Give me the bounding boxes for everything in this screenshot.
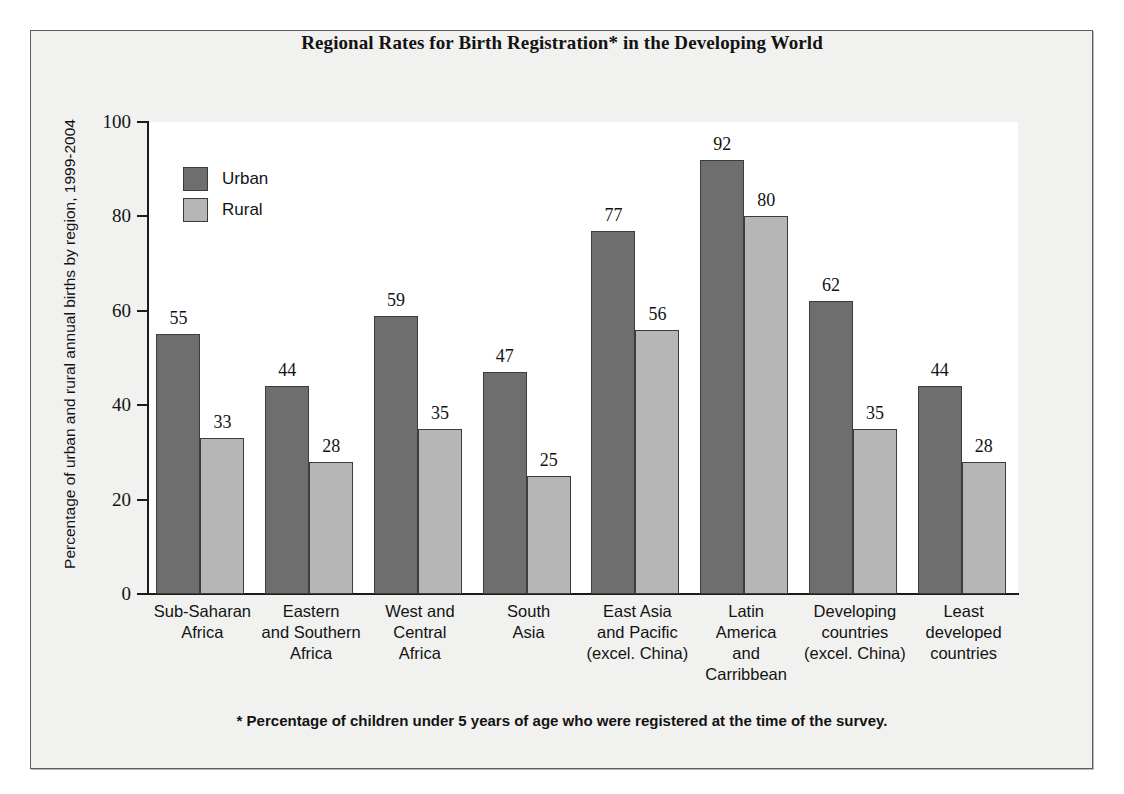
legend-item-rural: Rural — [183, 194, 268, 225]
bar-value-label: 44 — [255, 360, 319, 381]
bar-rural-7 — [962, 462, 1006, 594]
bar-value-label: 92 — [690, 134, 754, 155]
chart-title: Regional Rates for Birth Registration* i… — [0, 32, 1124, 54]
x-category-label: Leastdevelopedcountries — [895, 601, 1032, 664]
y-tick-mark — [137, 121, 148, 123]
bar-value-label: 56 — [625, 304, 689, 325]
legend-swatch-icon — [183, 167, 208, 191]
bar-value-label: 28 — [952, 436, 1016, 457]
bar-rural-6 — [853, 429, 897, 594]
y-tick-label: 20 — [11, 489, 131, 511]
bar-value-label: 35 — [843, 403, 907, 424]
bar-value-label: 25 — [517, 450, 581, 471]
y-tick-mark — [137, 404, 148, 406]
chart-legend: UrbanRural — [183, 163, 268, 225]
bar-value-label: 77 — [581, 205, 645, 226]
bar-urban-3 — [483, 372, 527, 594]
x-category-label-line: Carribbean — [678, 664, 815, 685]
bar-rural-1 — [309, 462, 353, 594]
bar-rural-5 — [744, 216, 788, 594]
bar-value-label: 59 — [364, 290, 428, 311]
bar-value-label: 44 — [908, 360, 972, 381]
bar-urban-5 — [700, 160, 744, 594]
bar-value-label: 47 — [473, 346, 537, 367]
chart-footnote: * Percentage of children under 5 years o… — [0, 712, 1124, 729]
x-category-label-line: countries — [895, 643, 1032, 664]
legend-swatch-icon — [183, 198, 208, 222]
bar-value-label: 55 — [146, 308, 210, 329]
x-category-label-line: developed — [895, 622, 1032, 643]
y-tick-mark — [137, 499, 148, 501]
y-tick-label: 80 — [11, 205, 131, 227]
bar-urban-4 — [591, 231, 635, 594]
bar-urban-6 — [809, 301, 853, 594]
legend-label: Rural — [222, 200, 263, 220]
bar-urban-0 — [156, 334, 200, 594]
legend-label: Urban — [222, 169, 268, 189]
bar-value-label: 80 — [734, 190, 798, 211]
bar-value-label: 33 — [190, 412, 254, 433]
x-category-label-line: Africa — [352, 643, 489, 664]
bar-value-label: 28 — [299, 436, 363, 457]
bar-urban-2 — [374, 316, 418, 594]
x-category-label-line: Least — [895, 601, 1032, 622]
bar-value-label: 35 — [408, 403, 472, 424]
y-tick-label: 40 — [11, 394, 131, 416]
bar-rural-4 — [635, 330, 679, 594]
y-tick-mark — [137, 593, 148, 595]
y-tick-mark — [137, 215, 148, 217]
y-tick-label: 0 — [11, 583, 131, 605]
bar-rural-3 — [527, 476, 571, 594]
y-tick-label: 100 — [11, 111, 131, 133]
bar-rural-2 — [418, 429, 462, 594]
bar-rural-0 — [200, 438, 244, 594]
y-axis-line — [147, 121, 149, 595]
y-tick-label: 60 — [11, 300, 131, 322]
bar-urban-7 — [918, 386, 962, 594]
bar-value-label: 62 — [799, 275, 863, 296]
y-axis-ticks: 020406080100 — [0, 0, 131, 794]
legend-item-urban: Urban — [183, 163, 268, 194]
bar-urban-1 — [265, 386, 309, 594]
